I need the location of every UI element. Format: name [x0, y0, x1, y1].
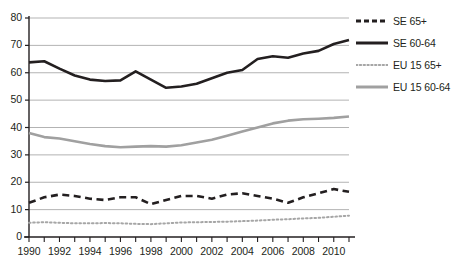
- x-tick-label: 2002: [195, 245, 229, 257]
- x-tick-label: 1992: [42, 245, 76, 257]
- y-tick-label: 10: [0, 203, 22, 215]
- y-tick-label: 80: [0, 11, 22, 23]
- series-line-3: [29, 117, 349, 148]
- legend-swatch-icon: [356, 60, 388, 70]
- x-tick-label: 2008: [286, 245, 320, 257]
- x-tick-label: 2000: [164, 245, 198, 257]
- series-line-2: [29, 216, 349, 224]
- y-tick-label: 20: [0, 175, 22, 187]
- legend-entry-1[interactable]: SE 60-64: [356, 32, 459, 54]
- y-tick-label: 40: [0, 121, 22, 133]
- series-line-0: [29, 189, 349, 204]
- line-chart: 01020304050607080 1990199219941996199820…: [0, 0, 459, 271]
- chart-legend: SE 65+SE 60-64EU 15 65+EU 15 60-64: [356, 10, 459, 98]
- legend-entry-3[interactable]: EU 15 60-64: [356, 76, 459, 98]
- x-tick-label: 2010: [317, 245, 351, 257]
- y-tick-label: 50: [0, 93, 22, 105]
- x-tick-label: 1990: [12, 245, 46, 257]
- legend-label: EU 15 60-64: [393, 81, 450, 93]
- legend-entry-0[interactable]: SE 65+: [356, 10, 459, 32]
- y-tick-label: 30: [0, 148, 22, 160]
- legend-label: EU 15 65+: [393, 59, 442, 71]
- legend-swatch-icon: [356, 16, 388, 26]
- x-tick-label: 1994: [73, 245, 107, 257]
- y-tick-label: 0: [0, 230, 22, 242]
- x-tick-label: 2004: [225, 245, 259, 257]
- series-line-1: [29, 40, 349, 88]
- x-tick-label: 1998: [134, 245, 168, 257]
- x-tick-label: 2006: [256, 245, 290, 257]
- legend-swatch-icon: [356, 38, 388, 48]
- x-tick-label: 1996: [103, 245, 137, 257]
- y-tick-label: 70: [0, 38, 22, 50]
- y-tick-label: 60: [0, 66, 22, 78]
- legend-label: SE 65+: [393, 15, 427, 27]
- legend-label: SE 60-64: [393, 37, 436, 49]
- legend-entry-2[interactable]: EU 15 65+: [356, 54, 459, 76]
- legend-swatch-icon: [356, 82, 388, 92]
